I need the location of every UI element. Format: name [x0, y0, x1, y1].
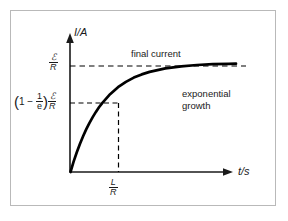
y-axis-title: I/A: [74, 27, 87, 38]
final-current-fraction: ℰ R: [49, 53, 58, 73]
current-curve: [71, 64, 237, 172]
figure-container: I/A t/s ℰ R (1 − 1 e ) ℰ R L R final cur…: [0, 0, 288, 221]
x-axis: [70, 168, 233, 176]
one-over-e-numerator: 1: [36, 92, 43, 101]
partial-current-denominator: R: [48, 101, 57, 111]
time-constant-fraction: L R: [109, 178, 118, 198]
time-constant-numerator: L: [109, 178, 118, 187]
final-current-numerator: ℰ: [49, 53, 58, 62]
y-axis-quantity-symbol: I/A: [74, 26, 87, 38]
final-current-annotation: final current: [131, 49, 181, 59]
x-axis-quantity-symbol: t/s: [238, 165, 250, 177]
one-over-e-denominator: e: [36, 101, 43, 111]
x-axis-title: t/s: [238, 166, 250, 177]
time-constant-denominator: R: [109, 187, 118, 197]
final-current-tick-label: ℰ R: [49, 53, 58, 73]
partial-current-tick-label: (1 − 1 e ) ℰ R: [14, 92, 56, 112]
time-constant-tick-label: L R: [109, 178, 118, 198]
one-minus-text: 1 −: [19, 96, 36, 107]
partial-current-fraction: ℰ R: [48, 92, 57, 112]
one-over-e-fraction: 1 e: [36, 92, 43, 112]
partial-current-numerator: ℰ: [48, 92, 57, 101]
final-current-denominator: R: [49, 62, 58, 72]
exponential-growth-annotation: exponential growth: [182, 88, 252, 112]
